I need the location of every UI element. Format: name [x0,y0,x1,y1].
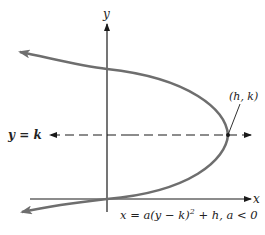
parabola-curve-upper [20,52,228,135]
equation-main: x = a(y − k) [120,208,190,222]
equation-label: x = a(y − k)2 + h, a < 0 [120,207,258,222]
x-axis-label: x [253,192,260,206]
vertex-label: (h, k) [229,90,258,103]
parabola-curve-lower [22,135,228,212]
y-axis-label: y [102,7,110,21]
axis-of-symmetry-label: y = k [7,128,42,142]
equation-tail: + h, a < 0 [195,208,258,222]
parabola-diagram: y x (h, k) y = k x = a(y − k)2 + h, a < … [0,0,265,235]
vertex-leader-line [228,104,240,135]
